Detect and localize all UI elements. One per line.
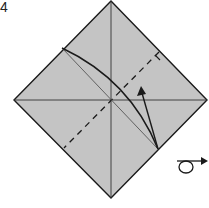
turn-over-icon: [177, 157, 208, 173]
origami-diagram: [0, 0, 209, 208]
